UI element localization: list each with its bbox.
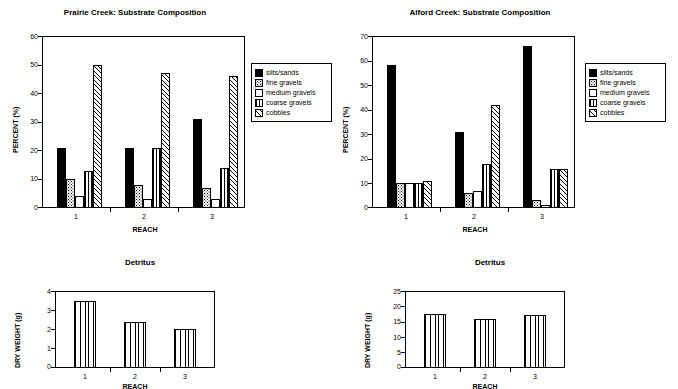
y-tickmark <box>51 367 55 368</box>
chart-alford-detritus: Detritus DRY WEIGHT (g) 25 20 15 10 5 0 … <box>350 258 678 388</box>
chart-title: Detritus <box>60 258 220 267</box>
y-tickmark <box>401 322 405 323</box>
x-tick-2: 2 <box>475 373 495 380</box>
bar-fine-gravels-2 <box>464 193 473 208</box>
bar-cobbles-1 <box>423 181 432 208</box>
bar-medium-gravels-3 <box>541 205 550 208</box>
chart-title: Prairie Creek: Substrate Composition <box>20 8 250 17</box>
x-tick-1: 1 <box>396 213 416 220</box>
legend-swatch-icon <box>589 79 597 87</box>
bar-fine-gravels-3 <box>532 200 541 208</box>
bar-fine-gravels-1 <box>66 179 75 208</box>
y-tickmark <box>368 36 372 37</box>
legend-swatch-icon <box>589 109 597 117</box>
chart-title: Detritus <box>410 258 570 267</box>
legend-item-medium-gravels: medium gravels <box>255 88 327 97</box>
y-tickmark <box>368 134 372 135</box>
y-tick-40: 40 <box>350 106 368 113</box>
x-tick-2: 2 <box>464 213 484 220</box>
legend-swatch-icon <box>255 69 263 77</box>
bar-fine-gravels-3 <box>202 188 211 208</box>
bar-cobbles-2 <box>491 105 500 208</box>
legend: silts/sands fine gravels medium gravels … <box>251 63 332 122</box>
y-tick-0: 0 <box>20 204 38 211</box>
y-tick-0: 0 <box>350 204 368 211</box>
x-tick-3: 3 <box>525 373 545 380</box>
legend-swatch-icon <box>589 69 597 77</box>
legend-swatch-icon <box>255 79 263 87</box>
bar-silts-sands-3 <box>523 46 532 208</box>
x-axis-label: REACH <box>100 226 190 233</box>
y-axis-label: PERCENT (%) <box>12 107 19 153</box>
legend-item-silts-sands: silts/sands <box>589 68 661 77</box>
x-tickmark <box>110 208 111 212</box>
y-tickmark <box>38 122 42 123</box>
y-tick-40: 40 <box>20 90 38 97</box>
y-tick-10: 10 <box>383 334 401 341</box>
y-tick-1: 1 <box>36 345 51 352</box>
y-tickmark <box>401 337 405 338</box>
x-axis-label: REACH <box>90 383 180 389</box>
bar-coarse-gravels-2 <box>482 164 491 208</box>
y-tick-60: 60 <box>350 57 368 64</box>
y-tick-20: 20 <box>350 155 368 162</box>
chart-title: Alford Creek: Substrate Composition <box>360 8 600 17</box>
y-tickmark <box>401 367 405 368</box>
y-tickmark <box>38 93 42 94</box>
bar-fine-gravels-1 <box>396 183 405 208</box>
y-tick-60: 60 <box>20 33 38 40</box>
bar-cobbles-1 <box>93 65 102 208</box>
x-tickmark <box>160 368 161 372</box>
y-tick-2: 2 <box>36 326 51 333</box>
legend-item-silts-sands: silts/sands <box>255 68 327 77</box>
y-tickmark <box>38 65 42 66</box>
y-tick-4: 4 <box>36 288 51 295</box>
legend-swatch-icon <box>589 99 597 107</box>
y-axis-label: DRY WEIGHT (g) <box>14 313 21 368</box>
bar-medium-gravels-3 <box>211 199 220 208</box>
x-tickmark <box>508 208 509 212</box>
y-tick-50: 50 <box>20 61 38 68</box>
legend-item-fine-gravels: fine gravels <box>589 78 661 87</box>
chart-alford-substrate: Alford Creek: Substrate Composition PERC… <box>330 8 678 238</box>
y-tickmark <box>368 85 372 86</box>
x-tick-3: 3 <box>532 213 552 220</box>
bar-coarse-gravels-1 <box>84 171 93 208</box>
y-tickmark <box>38 207 42 208</box>
x-tick-1: 1 <box>75 373 95 380</box>
legend-swatch-icon <box>589 89 597 97</box>
y-tickmark <box>38 179 42 180</box>
y-tick-5: 5 <box>383 349 401 356</box>
bar-medium-gravels-1 <box>75 196 84 208</box>
y-tickmark <box>51 291 55 292</box>
x-tick-2: 2 <box>134 213 154 220</box>
y-tick-20: 20 <box>383 303 401 310</box>
y-tickmark <box>38 36 42 37</box>
bar-fine-gravels-2 <box>134 185 143 208</box>
bar-detritus-2 <box>124 322 146 368</box>
x-tickmark <box>510 368 511 372</box>
x-tick-1: 1 <box>66 213 86 220</box>
x-tick-2: 2 <box>125 373 145 380</box>
y-tick-25: 25 <box>383 288 401 295</box>
bar-detritus-1 <box>74 301 96 368</box>
x-tick-3: 3 <box>175 373 195 380</box>
bar-coarse-gravels-3 <box>220 168 229 208</box>
y-axis-label: DRY WEIGHT (g) <box>364 313 371 368</box>
legend: silts/sands fine gravels medium gravels … <box>585 63 666 122</box>
y-tickmark <box>401 352 405 353</box>
bar-medium-gravels-2 <box>143 199 152 208</box>
y-tick-20: 20 <box>20 147 38 154</box>
bar-detritus-3 <box>524 315 546 368</box>
legend-item-medium-gravels: medium gravels <box>589 88 661 97</box>
bar-detritus-2 <box>474 319 496 368</box>
legend-swatch-icon <box>255 99 263 107</box>
y-axis-label: PERCENT (%) <box>342 107 349 153</box>
y-tickmark <box>368 207 372 208</box>
legend-item-fine-gravels: fine gravels <box>255 78 327 87</box>
bar-medium-gravels-2 <box>473 191 482 208</box>
bar-silts-sands-2 <box>125 148 134 208</box>
y-tick-10: 10 <box>350 180 368 187</box>
bar-coarse-gravels-3 <box>550 169 559 208</box>
y-tick-30: 30 <box>20 118 38 125</box>
